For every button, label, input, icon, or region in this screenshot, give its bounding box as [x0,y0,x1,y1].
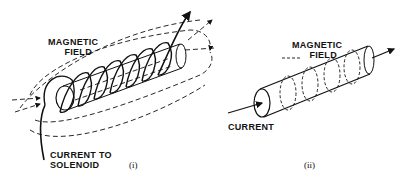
current-to-solenoid-label: CURRENT TO SOLENOID [50,150,112,170]
current-arrow-in [228,103,262,113]
solenoid-diagram: MAGNETIC FIELD CURRENT TO SOLENOID (i) M… [0,0,403,178]
magnetic-field-label-ii: MAGNETIC FIELD [292,40,342,60]
magnetic-field-label-ii-line1: MAGNETIC [292,40,342,50]
magnetic-field-label-ii-line2: FIELD [292,50,342,60]
magnetic-field-label: MAGNETIC FIELD [48,37,98,57]
caption-ii: (ii) [304,160,315,170]
current-arrow-out [372,49,394,58]
current-label: CURRENT [228,122,274,132]
magnetic-field-lines [12,20,215,136]
magnetic-field-label-line1: MAGNETIC [48,37,98,47]
caption-i: (i) [129,160,138,170]
current-label-line2: SOLENOID [50,160,112,170]
solenoid-figure [12,12,215,160]
current-label-line1: CURRENT TO [50,150,112,160]
magnetic-field-label-line2: FIELD [48,47,98,57]
